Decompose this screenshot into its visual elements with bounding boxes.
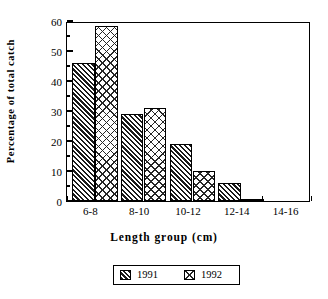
x-axis-tick-label: 14-16 bbox=[256, 206, 316, 217]
y-axis-tick bbox=[67, 50, 73, 51]
legend-label: 1991 bbox=[137, 270, 158, 281]
y-axis-title: Percentage of total catch bbox=[6, 11, 17, 191]
chart-legend: 19911992 bbox=[113, 265, 240, 285]
legend-entry-1991[interactable]: 1991 bbox=[120, 266, 158, 284]
y-axis-minor-tick bbox=[67, 35, 70, 36]
legend-label: 1992 bbox=[201, 270, 222, 281]
plot-area bbox=[66, 22, 310, 202]
bar-1991-6-8 bbox=[72, 63, 95, 201]
legend-swatch-1991 bbox=[120, 270, 131, 280]
bar-1992-10-12 bbox=[193, 171, 216, 201]
bar-1992-8-10 bbox=[144, 108, 167, 201]
bar-1992-12-14 bbox=[241, 199, 264, 201]
y-axis-tick-label: 40 bbox=[22, 77, 62, 88]
x-axis-title: Length group (cm) bbox=[0, 231, 328, 243]
y-axis-tick bbox=[67, 20, 73, 21]
x-axis-tick bbox=[311, 196, 312, 202]
y-axis-minor-tick bbox=[67, 155, 70, 156]
bar-1991-12-14 bbox=[218, 183, 241, 201]
y-axis-tick-label: 30 bbox=[22, 107, 62, 118]
bar-1991-10-12 bbox=[170, 144, 193, 201]
legend-swatch-1992 bbox=[184, 270, 195, 280]
y-axis-tick-label: 10 bbox=[22, 167, 62, 178]
y-axis-minor-tick bbox=[67, 185, 70, 186]
y-axis-tick-label: 0 bbox=[22, 197, 62, 208]
y-axis-minor-tick bbox=[67, 95, 70, 96]
y-axis-tick-label: 50 bbox=[22, 47, 62, 58]
chart-figure: Percentage of total catch 0102030405060 … bbox=[0, 0, 328, 299]
bar-1991-8-10 bbox=[121, 114, 144, 201]
bar-1992-6-8 bbox=[95, 26, 118, 202]
y-axis-minor-tick bbox=[67, 65, 70, 66]
y-axis-title-container: Percentage of total catch bbox=[0, 0, 22, 210]
y-axis-minor-tick bbox=[67, 125, 70, 126]
y-axis-tick-label: 60 bbox=[22, 17, 62, 28]
x-axis-tick bbox=[67, 196, 68, 202]
legend-entry-1992[interactable]: 1992 bbox=[184, 266, 222, 284]
y-axis-tick-label: 20 bbox=[22, 137, 62, 148]
